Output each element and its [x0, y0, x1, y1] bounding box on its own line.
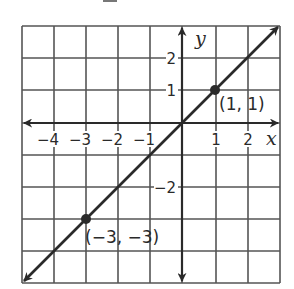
y-tick-label: 1	[166, 82, 176, 100]
y-tick-label: −2	[154, 179, 176, 197]
graph-canvas: −4−3−2−112 21−2 y x (1, 1) (−3, −3)	[0, 0, 294, 289]
x-tick-label: 1	[211, 131, 221, 149]
x-tick-label: −2	[101, 131, 123, 149]
x-tick-label: −1	[133, 131, 155, 149]
point-label-neg3-neg3: (−3, −3)	[85, 227, 159, 247]
cropped-mark	[103, 0, 117, 2]
x-tick-label: −4	[37, 131, 59, 149]
y-axis-label: y	[194, 27, 206, 49]
y-tick-label: 2	[166, 50, 176, 68]
x-tick-labels: −4−3−2−112	[37, 131, 253, 149]
x-tick-label: −3	[69, 131, 91, 149]
x-axis-label: x	[266, 127, 277, 149]
point-neg3-neg3	[81, 214, 91, 224]
point-label-1-1: (1, 1)	[219, 94, 265, 114]
coordinate-graph: −4−3−2−112 21−2 y x (1, 1) (−3, −3)	[0, 0, 294, 289]
x-tick-label: 2	[243, 131, 253, 149]
